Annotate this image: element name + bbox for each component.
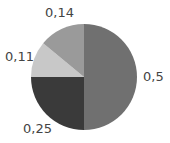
slice-label-0-11: 0,11 bbox=[5, 50, 34, 63]
slice-label-0-5: 0,5 bbox=[143, 70, 164, 83]
slice-label-0-25: 0,25 bbox=[23, 122, 52, 135]
slice-label-0-14: 0,14 bbox=[45, 6, 74, 19]
pie-slice bbox=[84, 24, 137, 130]
